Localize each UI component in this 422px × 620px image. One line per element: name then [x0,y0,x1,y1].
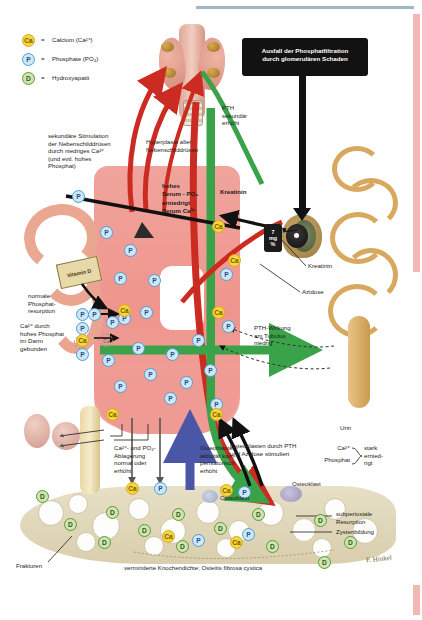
label-pth-increased: PTH sekundär erhöht [222,104,272,127]
label-osteoblast: Osteoblast [220,494,270,502]
molecule-calcium: Ca [106,408,119,421]
label-osteoclast-stimulated: Osteoklasten durch PTH und Azidose stimu… [230,442,340,457]
urine-bracket [352,448,362,464]
label-acidosis: Azidose [302,288,352,296]
molecule-phosphate: P [222,320,235,333]
leader-fragment-1 [60,430,104,436]
molecule-phosphate: P [114,380,127,393]
molecule-hydroxyapatite: D [106,506,119,519]
figure-caption: verminderte Knochendichte; Osteitis fibr… [124,564,354,572]
molecule-hydroxyapatite: D [252,508,265,521]
molecule-phosphate: P [132,342,145,355]
label-secondary-stimulation: sekundäre Stimulation der Nebenschilddrü… [48,132,144,170]
molecule-phosphate: P [148,274,161,287]
glomerular-failure-stem [299,76,306,211]
molecule-phosphate: P [102,354,115,367]
diagram-figure: Vitamin D [14,16,406,581]
glomerular-failure-box: Ausfall der Phosphatfiltration durch glo… [242,38,368,76]
leader-creatinine [280,238,306,266]
molecule-phosphate-bone: P [192,534,205,547]
leader-fractures [48,536,72,562]
molecule-phosphate: P [204,364,217,377]
label-normal-resorption: normale Phosphat- resorption [28,292,88,315]
molecule-hydroxyapatite: D [36,490,49,503]
page-edge-rule-bottom [413,585,420,615]
molecule-hydroxyapatite: D [138,524,151,537]
molecule-phosphate: P [114,272,127,285]
molecule-phosphate: P [144,368,157,381]
molecule-calcium: Ca [118,304,131,317]
hydroxyapatite-icon: D [22,72,35,85]
molecule-calcium-bone: Ca [162,530,175,543]
molecule-calcium-bone-edge: Ca [126,482,139,495]
molecule-hydroxyapatite: D [344,536,357,549]
label-subperiosteal: subperiostale Resorption [336,510,398,525]
legend-equals: = [41,55,45,62]
legend-label-phosphate: Phosphate (PO₄) [52,55,98,62]
molecule-calcium: Ca [228,254,241,267]
molecule-phosphate: P [88,308,101,321]
legend-row-phosphate: P = Phosphate (PO₄) [18,51,148,70]
leader-deposition-bracket [110,424,122,436]
label-cysts: Zystenbildung [336,528,398,536]
seesaw-fulcrum [134,222,154,238]
molecule-phosphate-bone-edge: P [154,482,167,495]
molecule-calcium-bound: Ca [100,334,113,347]
label-deposition: Ca²⁺- und PO₄- Ablagerung normal oder er… [114,444,176,474]
molecule-phosphate: P [140,306,153,319]
molecule-phosphate: P [100,226,113,239]
page-top-rule [196,6,414,9]
legend-row-hydroxyapatite: D = Hydroxyapatit [18,70,148,89]
label-creatinine-pointer: Kreatinin [308,262,358,270]
molecule-hydroxyapatite: D [314,514,327,527]
molecule-phosphate-bone: P [242,528,255,541]
label-osteoclast: Osteoklast [292,480,340,488]
label-urine: Urin [340,424,374,432]
phosphate-icon: P [22,53,35,66]
label-creatinine-box: Kreatinin [220,188,274,196]
molecule-hydroxyapatite: D [214,522,227,535]
label-pth-tubulus: PTH-Wirkung am Tubulus niedrig [254,324,314,347]
legend-label-calcium: Calcium (Ca²⁺) [52,36,93,43]
caption-guide [134,550,334,559]
molecule-phosphate: P [124,244,137,257]
legend: Ca = Calcium (Ca²⁺) P = Phosphate (PO₄) … [18,32,148,89]
molecule-phosphate: P [72,190,85,203]
molecule-hydroxyapatite: D [176,540,189,553]
molecule-hydroxyapatite: D [64,518,77,531]
page-background: Vitamin D [0,0,422,620]
label-serum-status: hohes Serum - PO₄ erniedrigt Serum Ca²⁺ [162,182,220,216]
legend-equals: = [41,74,45,81]
molecule-phosphate: P [166,348,179,361]
molecule-hydroxyapatite: D [98,536,111,549]
legend-equals: = [41,36,45,43]
leader-acidosis [260,264,300,292]
molecule-hydroxyapatite: D [266,540,279,553]
glomerular-failure-label: Ausfall der Phosphatfiltration durch glo… [242,47,368,63]
label-calcium-bound: Ca²⁺ durch hohes Phosphat im Darm gebund… [20,322,88,352]
creatinine-value-box: 7 mg % [264,224,282,252]
creatinine-unit: mg % [269,235,277,247]
leader-fragment-2 [60,440,104,446]
leader-deposition-bracket-2 [114,424,148,440]
glomerular-failure-arrowhead [293,208,311,221]
page-edge-rule-top [413,14,420,272]
label-urine-state: stark ernied- rigt [364,444,404,467]
label-hyperplasia: Hyperplasie aller Nebenschilddrüsen [146,138,220,153]
molecule-phosphate: P [164,392,177,405]
molecule-hydroxyapatite: D [172,508,185,521]
molecule-calcium: Ca [212,220,225,233]
molecule-phosphate: P [180,376,193,389]
label-fractures: Frakturen [16,562,64,570]
molecule-calcium-bone: Ca [230,536,243,549]
calcium-icon: Ca [22,34,35,47]
legend-label-hydroxyapatite: Hydroxyapatit [52,74,89,81]
molecule-phosphate: P [220,268,233,281]
molecule-phosphate: P [192,334,205,347]
legend-row-calcium: Ca = Calcium (Ca²⁺) [18,32,148,51]
molecule-calcium: Ca [212,306,225,319]
molecule-calcium: Ca [210,408,223,421]
